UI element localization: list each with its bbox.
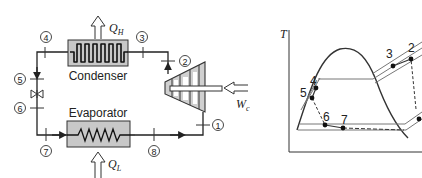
compressor-shaft bbox=[170, 86, 222, 91]
svg-text:5: 5 bbox=[17, 75, 22, 85]
ts-point-3 bbox=[391, 64, 396, 69]
svg-text:6: 6 bbox=[17, 104, 22, 114]
compressor-work-label: Wc bbox=[236, 97, 250, 113]
state-8: 8 bbox=[149, 146, 160, 157]
expansion-valve-icon bbox=[31, 90, 43, 98]
state-3: 3 bbox=[137, 32, 148, 43]
condenser: Condenser QH bbox=[68, 16, 128, 83]
condenser-label: Condenser bbox=[69, 69, 128, 83]
ts-point-1 bbox=[417, 117, 422, 122]
ts-diagram: T 2 bbox=[280, 27, 422, 152]
ts-label-7: 7 bbox=[341, 113, 348, 127]
ts-point-5 bbox=[310, 96, 315, 101]
svg-text:3: 3 bbox=[139, 33, 144, 43]
ts-point-2 bbox=[409, 57, 414, 62]
svg-text:2: 2 bbox=[182, 57, 187, 67]
heat-out-arrow-icon bbox=[91, 16, 105, 39]
ts-label-2: 2 bbox=[408, 41, 415, 55]
state-4: 4 bbox=[41, 32, 52, 43]
svg-text:8: 8 bbox=[151, 147, 156, 157]
pipe-evaporator-to-compressor bbox=[135, 112, 203, 135]
svg-text:7: 7 bbox=[43, 147, 48, 157]
refrigeration-cycle-figure: Condenser QH Evaporator QL bbox=[0, 0, 422, 178]
compression-path bbox=[411, 59, 416, 109]
svg-text:4: 4 bbox=[43, 33, 48, 43]
state-2: 2 bbox=[180, 56, 191, 67]
svg-text:1: 1 bbox=[215, 121, 220, 131]
ts-axes bbox=[289, 30, 422, 152]
heat-absorbed-label: QL bbox=[108, 157, 122, 173]
evaporator-label: Evaporator bbox=[69, 106, 128, 120]
cycle-schematic: Condenser QH Evaporator QL bbox=[15, 16, 251, 178]
evaporator: Evaporator QL bbox=[67, 106, 135, 178]
compressor: Wc bbox=[165, 62, 250, 113]
state-6: 6 bbox=[15, 103, 26, 114]
ts-label-4: 4 bbox=[310, 74, 317, 88]
y-axis-label: T bbox=[280, 27, 288, 41]
state-7: 7 bbox=[41, 146, 52, 157]
work-in-arrow-icon bbox=[224, 82, 248, 94]
pipe-condenser-to-compressor bbox=[128, 52, 168, 65]
ts-label-3: 3 bbox=[386, 47, 393, 61]
heat-rejected-label: QH bbox=[109, 21, 125, 37]
state-1: 1 bbox=[213, 120, 224, 131]
ts-label-6: 6 bbox=[323, 110, 330, 124]
ts-label-5: 5 bbox=[300, 86, 307, 100]
heat-in-arrow-icon bbox=[91, 152, 105, 178]
state-5: 5 bbox=[15, 74, 26, 85]
